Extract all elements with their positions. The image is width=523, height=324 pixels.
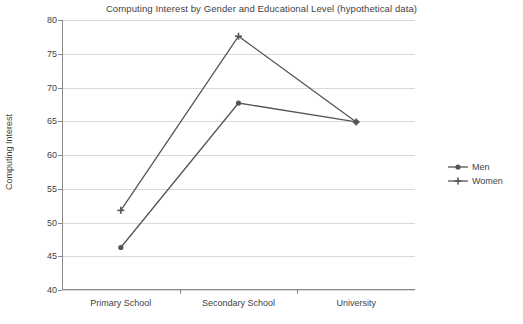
data-point-marker (118, 245, 123, 250)
plot-area: 404550556065707580 Primary SchoolSeconda… (62, 20, 415, 290)
chart-legend: MenWomen (447, 160, 519, 188)
x-tick-label: University (336, 298, 376, 308)
y-tick-label: 70 (47, 83, 57, 93)
y-tick-label: 45 (47, 251, 57, 261)
y-axis-title-text: Computing Interest (4, 114, 14, 190)
y-tick-label: 50 (47, 218, 57, 228)
y-tick-label: 40 (47, 285, 57, 295)
x-tick-mark (180, 290, 181, 294)
y-axis-title: Computing Interest (2, 0, 16, 324)
chart-container: Computing Interest by Gender and Educati… (0, 0, 523, 324)
data-point-marker (117, 207, 124, 214)
data-point-marker (455, 164, 460, 169)
legend-marker-filled-circle (447, 161, 469, 173)
data-series-layer (62, 20, 415, 290)
y-tick-label: 60 (47, 150, 57, 160)
legend-item-men[interactable]: Men (447, 160, 519, 174)
y-tick-mark (58, 290, 62, 291)
y-tick-label: 55 (47, 184, 57, 194)
legend-item-women[interactable]: Women (447, 174, 519, 188)
series-line-men (121, 103, 356, 247)
data-point-marker (455, 178, 462, 185)
x-tick-label: Primary School (90, 298, 151, 308)
x-tick-mark (297, 290, 298, 294)
gridline (62, 290, 415, 291)
series-line-women (121, 36, 356, 210)
y-tick-label: 80 (47, 15, 57, 25)
legend-marker-plus (447, 175, 469, 187)
y-tick-label: 65 (47, 116, 57, 126)
x-tick-label: Secondary School (202, 298, 275, 308)
y-tick-label: 75 (47, 49, 57, 59)
data-point-marker (236, 100, 241, 105)
chart-title: Computing Interest by Gender and Educati… (0, 3, 523, 14)
legend-label: Women (472, 176, 503, 186)
legend-label: Men (472, 162, 490, 172)
